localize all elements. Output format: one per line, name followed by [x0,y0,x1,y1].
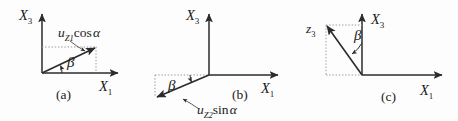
panel-b-x1-axis-label: X1 [261,81,274,99]
panel-a-beta-label: β [67,55,74,70]
panel-c-caption: (c) [381,90,396,104]
panel-b-caption: (b) [232,88,248,102]
panel-c-x3-axis-label: X3 [371,12,384,30]
panel-b-beta-arc [190,75,192,82]
panel-a-x3-axis-label: X3 [19,8,32,26]
panel-a-vector-label: uZ1cos α [58,26,100,42]
panel-b-vector [157,75,209,97]
panel-a-beta-arc [61,66,63,74]
vector-decomposition-figure: X3 X1 uZ1cos α β (a) X3 X1 uZ2sin α β (b… [0,0,458,121]
panel-c-vector-label: z3 [306,22,316,38]
panel-a-x1-axis-label: X1 [99,79,112,97]
panel-b-graphics [155,14,278,109]
panel-c-beta-arc [352,43,362,54]
panel-b-vector-label: uZ2sin α [197,103,237,119]
panel-b-beta-label: β [168,78,175,93]
panel-c-x1-axis-label: X1 [420,83,433,101]
panel-a-caption: (a) [56,88,71,102]
panel-a-graphics [42,14,118,73]
panel-b-x3-axis-label: X3 [186,8,199,26]
panel-c-beta-label: β [354,28,361,43]
